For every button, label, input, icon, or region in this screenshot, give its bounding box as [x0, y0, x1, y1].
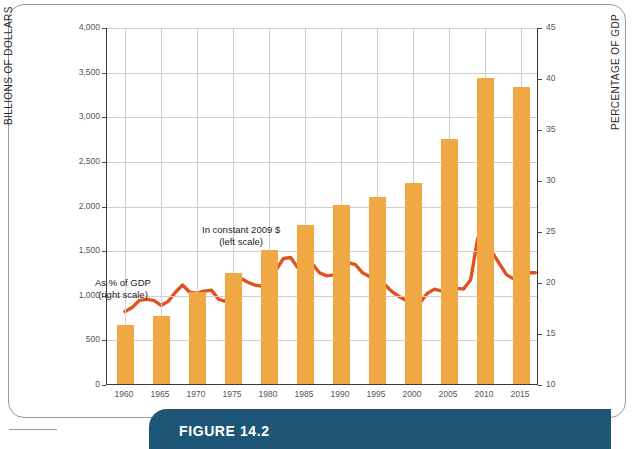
bar	[297, 225, 314, 384]
gridline-horizontal	[107, 73, 537, 74]
gridline-horizontal	[107, 117, 537, 118]
annotation-line2: (left scale)	[202, 236, 280, 248]
annotation-line1: In constant 2009 $	[202, 224, 280, 236]
y-axis-tickmark-right	[538, 385, 542, 386]
bar	[477, 78, 494, 384]
figure-frame: BILLIONS OF DOLLARS PERCENTAGE OF GDP As…	[8, 4, 626, 418]
caption-rule	[9, 429, 57, 430]
bar	[261, 250, 278, 384]
gridline-horizontal	[107, 296, 537, 297]
y-axis-tick-left: 3,500	[58, 67, 100, 77]
bar	[225, 273, 242, 384]
y-axis-tickmark-left	[102, 385, 106, 386]
y-axis-tick-right: 40	[546, 73, 576, 83]
gridline-horizontal	[107, 207, 537, 208]
bar	[513, 87, 530, 384]
y-axis-tickmark-left	[102, 251, 106, 252]
y-axis-tickmark-left	[102, 117, 106, 118]
bar	[153, 316, 170, 384]
annotation-line1: As % of GDP	[95, 277, 151, 289]
y-axis-tick-left: 1,000	[58, 290, 100, 300]
y-axis-tickmark-right	[538, 334, 542, 335]
y-axis-tickmark-left	[102, 296, 106, 297]
y-axis-tickmark-left	[102, 73, 106, 74]
annotation-in-constant-dollars: In constant 2009 $ (left scale)	[202, 224, 280, 248]
y-axis-tick-right: 10	[546, 379, 576, 389]
y-axis-tickmark-right	[538, 232, 542, 233]
y-axis-tickmark-right	[538, 181, 542, 182]
figure-caption-banner: FIGURE 14.2	[149, 409, 611, 449]
bar	[405, 183, 422, 384]
y-axis-title-right: PERCENTAGE OF GDP	[610, 14, 621, 130]
y-axis-tick-right: 20	[546, 277, 576, 287]
y-axis-tickmark-left	[102, 340, 106, 341]
y-axis-tickmark-left	[102, 162, 106, 163]
y-axis-tick-right: 35	[546, 124, 576, 134]
gridline-horizontal	[107, 28, 537, 29]
y-axis-tickmark-left	[102, 28, 106, 29]
gridline-horizontal	[107, 251, 537, 252]
y-axis-tickmark-right	[538, 283, 542, 284]
y-axis-tick-left: 2,500	[58, 156, 100, 166]
plot-area	[106, 28, 538, 385]
x-axis-tick: 2015	[496, 389, 544, 399]
annotation-as-percent-of-gdp: As % of GDP (right scale)	[95, 277, 151, 301]
y-axis-tickmark-right	[538, 79, 542, 80]
y-axis-tick-right: 15	[546, 328, 576, 338]
y-axis-tick-left: 2,000	[58, 201, 100, 211]
y-axis-tickmark-right	[538, 28, 542, 29]
gridline-horizontal	[107, 162, 537, 163]
y-axis-tick-right: 30	[546, 175, 576, 185]
bar	[189, 292, 206, 384]
y-axis-tick-right: 45	[546, 22, 576, 32]
y-axis-tick-left: 500	[58, 334, 100, 344]
y-axis-tick-left: 4,000	[58, 22, 100, 32]
bar	[369, 197, 386, 384]
figure-caption-text: FIGURE 14.2	[179, 423, 270, 439]
y-axis-title-left: BILLIONS OF DOLLARS	[3, 6, 14, 125]
bar	[333, 205, 350, 384]
y-axis-tick-left: 3,000	[58, 111, 100, 121]
bar	[117, 325, 134, 384]
y-axis-tickmark-right	[538, 130, 542, 131]
y-axis-tick-left: 0	[58, 379, 100, 389]
y-axis-tick-right: 25	[546, 226, 576, 236]
line-path-gdp-percentage	[125, 238, 535, 311]
y-axis-tick-left: 1,500	[58, 245, 100, 255]
y-axis-tickmark-left	[102, 207, 106, 208]
gridline-horizontal	[107, 340, 537, 341]
bar	[441, 139, 458, 384]
